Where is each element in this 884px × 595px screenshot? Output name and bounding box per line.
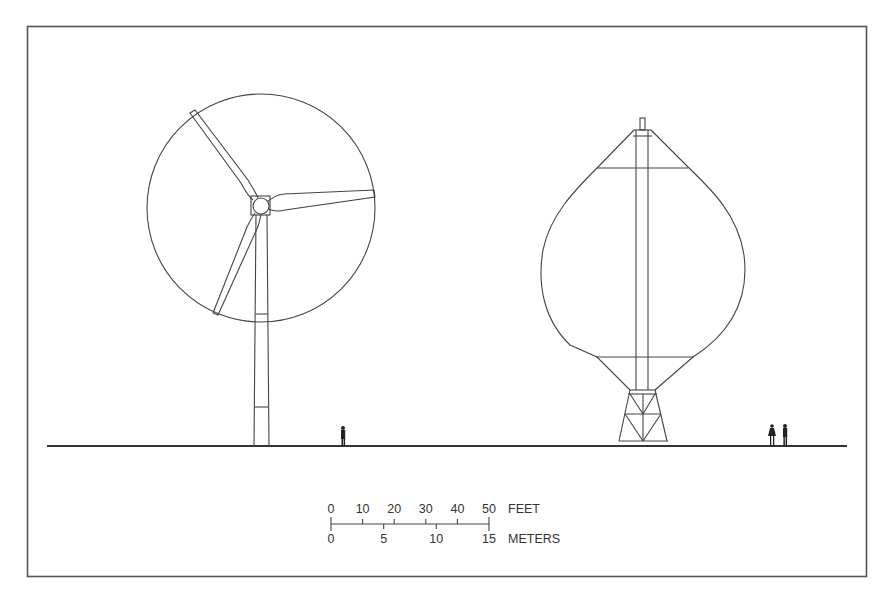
diagram-canvas: 0 10 20 30 40 50 FEET 0 5 10 15 METERS — [0, 0, 884, 595]
feet-tick-label: 0 — [328, 502, 335, 516]
vertical-axis-turbine — [541, 118, 745, 441]
feet-tick-label: 10 — [356, 502, 370, 516]
meter-tick-label: 15 — [482, 532, 496, 546]
human-figure-icon — [341, 426, 345, 446]
blade-upper-left — [190, 110, 258, 200]
human-figure-icon — [768, 424, 776, 446]
rotor-hub — [253, 198, 269, 214]
feet-tick-label: 20 — [387, 502, 401, 516]
blade-lower-left — [213, 213, 261, 315]
feet-tick-label: 30 — [419, 502, 433, 516]
feet-tick-label: 50 — [482, 502, 496, 516]
rotor-shaft — [636, 130, 648, 390]
turbine-tower — [254, 215, 269, 446]
darrieus-blade-left — [541, 130, 634, 390]
feet-tick-label: 40 — [450, 502, 464, 516]
meter-tick-label: 0 — [328, 532, 335, 546]
meter-unit-label: METERS — [508, 532, 560, 546]
figure-border — [28, 27, 867, 577]
darrieus-blade-right — [651, 130, 745, 390]
meter-tick-label: 10 — [429, 532, 443, 546]
scale-bar: 0 10 20 30 40 50 FEET 0 5 10 15 METERS — [328, 502, 561, 546]
feet-unit-label: FEET — [508, 502, 540, 516]
human-figure-icon — [783, 424, 787, 446]
base-truss-tower — [619, 390, 668, 441]
blade-right — [267, 190, 375, 211]
top-bearing — [640, 118, 645, 130]
meter-tick-label: 5 — [380, 532, 387, 546]
horizontal-axis-turbine — [147, 94, 375, 446]
